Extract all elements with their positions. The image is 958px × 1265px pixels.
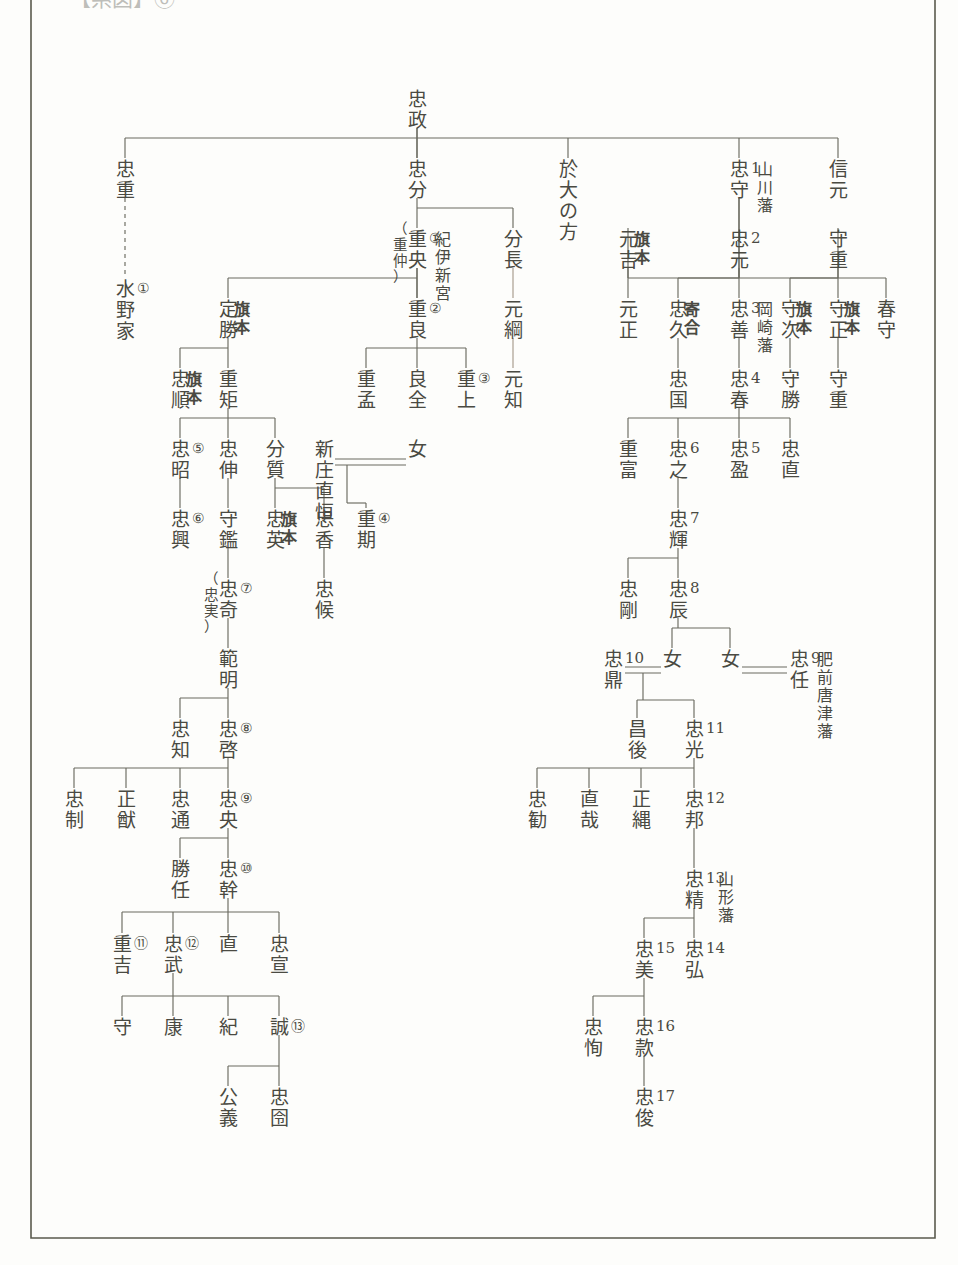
person-side-label: 山川藩 <box>757 160 773 215</box>
person-node[interactable]: 元正 <box>619 298 638 341</box>
person-node[interactable]: 守勝 <box>781 368 800 411</box>
person-node[interactable]: 正縄 <box>632 788 651 831</box>
person-name: 忠元 <box>730 228 749 271</box>
person-node[interactable]: 春守 <box>877 298 896 341</box>
succession-mark: ⑩ <box>240 860 253 876</box>
person-node[interactable]: 元知 <box>504 368 523 411</box>
person-node[interactable]: 守重 <box>829 368 848 411</box>
person-name: 忠之 <box>669 438 688 481</box>
person-node[interactable]: 忠剛 <box>619 578 638 621</box>
person-node[interactable]: 忠重 <box>116 158 135 201</box>
person-node[interactable]: 忠宣 <box>270 933 289 976</box>
succession-mark: 4 <box>751 369 761 387</box>
person-name: 直哉 <box>580 788 599 831</box>
succession-mark: 10 <box>625 649 644 667</box>
person-node[interactable]: 公義 <box>219 1086 238 1129</box>
person-name: 忠知 <box>171 718 190 761</box>
person-node[interactable]: 忠直 <box>781 438 800 481</box>
person-name: 忠宣 <box>270 933 289 976</box>
person-node[interactable]: 元綱 <box>504 298 523 341</box>
person-node[interactable]: 信元 <box>829 158 848 201</box>
person-node[interactable]: 忠香 <box>315 508 334 551</box>
person-node[interactable]: 元吉旗本 <box>619 228 652 271</box>
person-node[interactable]: 紀 <box>219 1016 238 1038</box>
person-node[interactable]: 忠伸 <box>219 438 238 481</box>
succession-mark: 5 <box>751 439 761 457</box>
succession-mark: ⑦ <box>240 580 253 596</box>
succession-mark: 16 <box>656 1017 675 1035</box>
person-node[interactable]: 忠囹 <box>270 1086 289 1129</box>
person-node[interactable]: 忠順旗本 <box>171 368 204 411</box>
person-node[interactable]: 忠制 <box>65 788 84 831</box>
succession-mark: 14 <box>706 939 725 957</box>
person-node[interactable]: 忠勧 <box>528 788 547 831</box>
person-node[interactable]: 忠候 <box>315 578 334 621</box>
person-node[interactable]: 直 <box>219 933 238 955</box>
person-node[interactable]: 勝任 <box>171 858 190 901</box>
person-name: 守 <box>113 1016 132 1038</box>
person-alias: （重仲） <box>393 221 407 285</box>
person-name: 忠善 <box>730 298 749 341</box>
person-node[interactable]: 重富 <box>619 438 638 481</box>
person-node[interactable]: 忠恂 <box>584 1016 603 1059</box>
person-node[interactable]: 重孟 <box>357 368 376 411</box>
person-side-label: 旗本 <box>795 300 813 337</box>
person-node[interactable]: 女 <box>663 648 682 670</box>
person-side-label: 旗本 <box>843 300 861 337</box>
person-node[interactable]: 忠国 <box>669 368 688 411</box>
person-node[interactable]: 於大の方 <box>559 158 578 243</box>
person-node[interactable]: 康 <box>164 1016 183 1038</box>
person-side-label: 紀伊新宮 <box>435 230 451 303</box>
succession-mark: 15 <box>656 939 675 957</box>
person-name: 忠香 <box>315 508 334 551</box>
person-node[interactable]: 良全 <box>408 368 427 411</box>
person-name: 元知 <box>504 368 523 411</box>
succession-mark: 6 <box>690 439 700 457</box>
person-node[interactable]: 忠久寄合 <box>669 298 702 341</box>
person-node[interactable]: 正猷 <box>117 788 136 831</box>
person-node[interactable]: 守次旗本 <box>781 298 814 341</box>
person-node[interactable]: 忠英旗本 <box>266 508 299 551</box>
person-node[interactable]: 分長 <box>504 228 523 271</box>
person-node[interactable]: 直哉 <box>580 788 599 831</box>
person-name: 忠興 <box>171 508 190 551</box>
succession-mark: ③ <box>478 370 491 386</box>
person-name: 忠美 <box>635 938 654 981</box>
person-name: 忠武 <box>164 933 183 976</box>
person-name: 水野家 <box>116 278 135 342</box>
person-node[interactable]: 範明 <box>219 648 238 691</box>
person-name: 忠弘 <box>685 938 704 981</box>
person-node[interactable]: 忠政 <box>408 88 427 131</box>
person-node[interactable]: 守重 <box>829 228 848 271</box>
person-side-label: 山形藩 <box>718 870 734 925</box>
person-side-label: 旗本 <box>633 230 651 267</box>
person-node[interactable]: 守鑑 <box>219 508 238 551</box>
succession-mark: ④ <box>378 510 391 526</box>
person-node[interactable]: 昌後 <box>628 718 647 761</box>
person-name: 春守 <box>877 298 896 341</box>
person-name: 忠精 <box>685 868 704 911</box>
person-node[interactable]: 女 <box>408 438 427 460</box>
person-name: 忠奇 <box>219 578 238 621</box>
person-node[interactable]: 忠通 <box>171 788 190 831</box>
header-layer: 【系図】⑥ <box>70 0 175 11</box>
person-node[interactable]: 忠知 <box>171 718 190 761</box>
chart-header-label: 【系図】⑥ <box>70 0 175 11</box>
person-node[interactable]: 守 <box>113 1016 132 1038</box>
person-node[interactable]: 守正旗本 <box>829 298 862 341</box>
person-name: 忠幹 <box>219 858 238 901</box>
person-name: 忠邦 <box>685 788 704 831</box>
person-name: 勝任 <box>171 858 190 901</box>
person-name: 守鑑 <box>219 508 238 551</box>
person-node[interactable]: 分質 <box>266 438 285 481</box>
person-name: 守勝 <box>781 368 800 411</box>
person-node[interactable]: 女 <box>721 648 740 670</box>
person-name: 昌後 <box>628 718 647 761</box>
person-node[interactable]: 定勝旗本 <box>219 298 252 341</box>
person-side-label: 旗本 <box>280 510 298 547</box>
succession-mark: 11 <box>706 719 725 737</box>
person-side-label: 旗本 <box>233 300 251 337</box>
person-node[interactable]: 重矩 <box>219 368 238 411</box>
succession-mark: 12 <box>706 789 725 807</box>
person-node[interactable]: 忠分 <box>408 158 427 201</box>
